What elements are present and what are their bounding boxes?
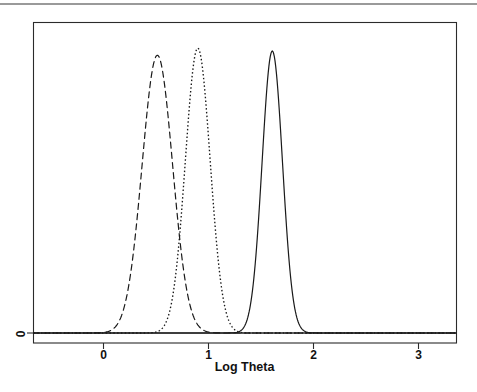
density-plot-figure: 0 1 2 3 0 Log Theta xyxy=(0,0,477,392)
x-axis-title: Log Theta xyxy=(0,360,477,374)
plot-frame xyxy=(34,23,457,344)
curve-dashed-density xyxy=(34,55,457,333)
x-axis-title-text: Log Theta xyxy=(215,360,275,374)
density-curves xyxy=(34,48,457,333)
curve-dotted-density xyxy=(34,48,457,333)
y-tick-label-0: 0 xyxy=(14,327,28,341)
x-axis-ticks xyxy=(104,343,419,349)
plot-canvas xyxy=(0,0,477,392)
curve-solid-density xyxy=(34,51,457,333)
